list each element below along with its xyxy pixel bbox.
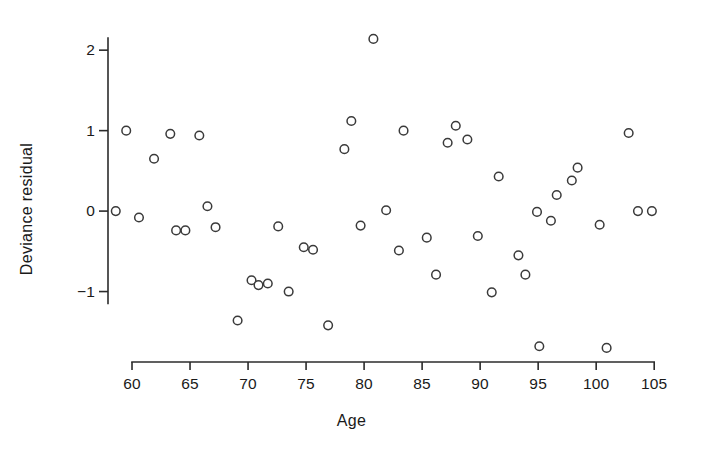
data-point: [340, 145, 349, 154]
y-tick-label: −1: [55, 283, 95, 301]
x-tick-label: 100: [583, 375, 609, 393]
data-point: [463, 135, 472, 144]
data-point: [451, 122, 460, 131]
data-point: [233, 316, 242, 325]
data-point: [166, 130, 175, 139]
data-point: [573, 163, 582, 172]
data-point: [514, 251, 523, 260]
data-point: [568, 176, 577, 185]
data-point: [122, 126, 131, 135]
y-tick-label: 0: [55, 202, 95, 220]
x-tick-label: 90: [471, 375, 489, 393]
x-tick-label: 85: [413, 375, 431, 393]
x-tick-label: 105: [641, 375, 667, 393]
y-axis-title: Deviance residual: [18, 109, 36, 309]
data-point: [150, 154, 159, 163]
data-point: [203, 202, 212, 211]
data-point: [602, 344, 611, 353]
data-point: [399, 126, 408, 135]
y-tick-label: 1: [55, 122, 95, 140]
axes-group: [99, 38, 654, 370]
data-point: [535, 342, 544, 351]
scatter-plot-figure: 6065707580859095100105 −1012 Age Devianc…: [0, 0, 703, 465]
data-point: [487, 288, 496, 297]
data-point: [263, 279, 272, 288]
x-tick-label: 60: [123, 375, 141, 393]
data-point: [369, 35, 378, 44]
plot-canvas: [0, 0, 703, 465]
data-point: [533, 208, 542, 217]
data-point: [111, 207, 120, 216]
data-point: [211, 223, 220, 232]
data-point: [432, 270, 441, 279]
data-points-group: [111, 35, 656, 353]
data-point: [356, 221, 365, 230]
data-point: [299, 243, 308, 252]
data-point: [474, 232, 483, 241]
data-point: [648, 207, 657, 216]
data-point: [395, 246, 404, 255]
data-point: [254, 281, 263, 290]
data-point: [347, 117, 356, 126]
plot-area: [0, 0, 703, 465]
data-point: [443, 138, 452, 147]
data-point: [274, 222, 283, 231]
data-point: [634, 207, 643, 216]
data-point: [422, 233, 431, 242]
data-point: [552, 191, 561, 200]
data-point: [172, 226, 181, 235]
data-point: [521, 270, 530, 279]
y-tick-label: 2: [55, 41, 95, 59]
data-point: [309, 245, 318, 254]
data-point: [382, 206, 391, 215]
data-point: [195, 131, 204, 140]
data-point: [595, 220, 604, 229]
data-point: [494, 172, 503, 181]
data-point: [547, 216, 556, 225]
x-tick-label: 65: [181, 375, 199, 393]
x-axis-title: Age: [0, 412, 703, 430]
x-tick-label: 95: [529, 375, 547, 393]
x-tick-label: 70: [239, 375, 257, 393]
data-point: [135, 213, 144, 222]
data-point: [324, 321, 333, 330]
data-point: [181, 226, 190, 235]
data-point: [624, 129, 633, 138]
data-point: [284, 287, 293, 296]
x-tick-label: 80: [355, 375, 373, 393]
x-tick-label: 75: [297, 375, 315, 393]
